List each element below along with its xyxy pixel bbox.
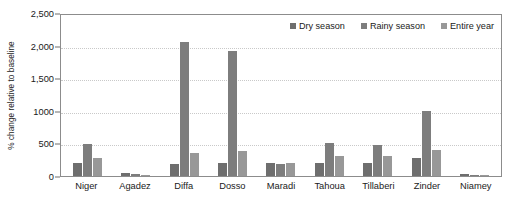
bar <box>335 156 344 176</box>
bar <box>141 175 150 176</box>
bar <box>422 111 431 176</box>
plot-area: Dry seasonRainy seasonEntire year <box>60 14 502 177</box>
legend-label: Rainy season <box>370 21 425 31</box>
bar <box>412 158 421 176</box>
x-category-label: Tahoua <box>305 181 354 191</box>
y-tick-label: 1,500 <box>31 74 54 84</box>
legend-item[interactable]: Rainy season <box>361 21 425 31</box>
bar <box>460 174 469 176</box>
x-category-label: Niamey <box>451 181 500 191</box>
bar <box>276 164 285 176</box>
y-axis-tick-labels: 2,5002,0001,50010005000 <box>18 14 60 177</box>
y-axis-title-text: % change relative to baseline <box>7 41 16 149</box>
bar <box>218 163 227 176</box>
bar-chart-figure: % change relative to baseline 2,5002,000… <box>0 0 506 223</box>
x-axis-category-labels: NigerAgadezDiffaDossoMaradiTahouaTillabe… <box>60 181 502 191</box>
x-category-label: Agadez <box>111 181 160 191</box>
bar <box>238 151 247 176</box>
bar-group <box>208 15 256 176</box>
bar-group <box>305 15 353 176</box>
legend-label: Entire year <box>450 21 494 31</box>
bar <box>470 175 479 176</box>
bar-group <box>111 15 159 176</box>
legend-swatch-icon <box>361 23 367 29</box>
bar <box>432 150 441 176</box>
bar <box>121 173 130 176</box>
bar <box>286 163 295 176</box>
bar-groups <box>61 15 501 176</box>
x-category-label: Zinder <box>403 181 452 191</box>
bar <box>180 42 189 176</box>
x-category-label: Tillaberi <box>354 181 403 191</box>
legend-swatch-icon <box>441 23 447 29</box>
bar <box>480 175 489 176</box>
bar <box>315 163 324 176</box>
bar-group <box>451 15 499 176</box>
bar <box>383 156 392 176</box>
bar <box>83 144 92 176</box>
bar <box>73 163 82 176</box>
legend-item[interactable]: Entire year <box>441 21 494 31</box>
bar <box>93 158 102 176</box>
bar-group <box>354 15 402 176</box>
y-tick-label: 1000 <box>33 107 54 117</box>
bar <box>170 164 179 176</box>
x-category-label: Dosso <box>208 181 257 191</box>
bar-group <box>402 15 450 176</box>
bar-group <box>257 15 305 176</box>
bar <box>325 143 334 176</box>
bar <box>190 153 199 176</box>
y-tick-label: 2,500 <box>31 9 54 19</box>
x-category-label: Diffa <box>159 181 208 191</box>
bar <box>373 145 382 176</box>
y-tick-label: 500 <box>38 139 54 149</box>
legend-swatch-icon <box>290 23 296 29</box>
bar-group <box>160 15 208 176</box>
x-category-label: Maradi <box>257 181 306 191</box>
bar <box>266 163 275 176</box>
legend-label: Dry season <box>299 21 345 31</box>
x-category-label: Niger <box>62 181 111 191</box>
bar-group <box>63 15 111 176</box>
bar <box>228 51 237 176</box>
legend-item[interactable]: Dry season <box>290 21 345 31</box>
y-tick-label: 0 <box>49 172 54 182</box>
bar <box>363 163 372 176</box>
y-tick-label: 2,000 <box>31 42 54 52</box>
chart-legend: Dry seasonRainy seasonEntire year <box>288 20 496 32</box>
bar <box>131 174 140 176</box>
